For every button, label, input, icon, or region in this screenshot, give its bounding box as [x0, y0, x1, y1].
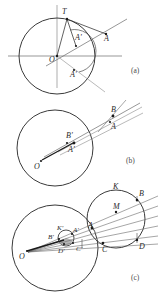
ray-lower-a: [57, 56, 105, 92]
ray-OB-b: [44, 103, 140, 157]
label-c-C: C: [102, 246, 107, 254]
point-D-c: [136, 239, 138, 241]
ray-OA-a: [46, 19, 127, 66]
label-c-K: K: [113, 183, 118, 191]
point-Aprime-a: [75, 45, 77, 47]
label-c-A: A: [88, 222, 93, 230]
label-a-O: O: [49, 56, 55, 64]
point-Bprime-c: [58, 238, 60, 240]
point-Dprime-c: [63, 243, 65, 245]
label-b-A: A: [111, 123, 116, 131]
label-b-A-prime: A': [68, 146, 75, 154]
label-b-B-prime: B': [66, 132, 73, 140]
point-O-b: [40, 160, 42, 162]
circle-b: [17, 110, 93, 186]
label-c-D-prime: D': [58, 247, 65, 255]
label-c-D: D: [139, 243, 145, 251]
point-Aprime-b: [73, 142, 76, 145]
point-Bprime-b: [66, 142, 68, 144]
label-c-C-prime: C': [76, 245, 82, 253]
point-T-a: [66, 18, 68, 20]
label-c-M: M: [113, 203, 120, 211]
circle-O-c: [12, 205, 98, 291]
caption-b: (b): [126, 156, 135, 165]
panel-b: [17, 100, 143, 186]
point-B-b: [112, 115, 115, 118]
segment-OT-a: [57, 19, 67, 56]
label-a-A-double-prime: A': [70, 71, 77, 79]
label-c-O: O: [19, 253, 25, 261]
label-b-O: O: [34, 163, 40, 171]
label-c-B: B: [139, 190, 144, 198]
point-O-c: [26, 250, 28, 252]
label-b-B: B: [111, 106, 116, 114]
panel-a: [8, 5, 127, 94]
point-M-c: [115, 211, 117, 213]
arc-right-angle-a: [70, 30, 96, 72]
point-O-a: [56, 55, 58, 57]
label-c-K-prime: K': [57, 224, 63, 232]
point-Cprime-c: [72, 242, 74, 244]
point-C-c: [102, 242, 105, 245]
label-a-A-prime: A': [75, 34, 82, 42]
label-a-T: T: [62, 8, 66, 16]
caption-a: (a): [131, 66, 139, 75]
label-a-A: A: [104, 35, 109, 43]
label-c-B-prime: B': [48, 233, 54, 241]
label-c-A-prime: A': [73, 226, 79, 234]
point-B-c: [136, 199, 139, 202]
caption-c: (c): [131, 273, 139, 282]
